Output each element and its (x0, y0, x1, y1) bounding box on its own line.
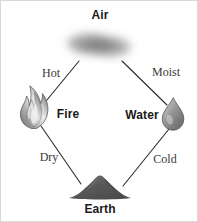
element-label-air: Air (92, 9, 109, 21)
droplet-icon (162, 98, 184, 131)
element-label-fire: Fire (57, 108, 79, 120)
element-label-earth: Earth (84, 203, 115, 215)
element-label-water: Water (125, 109, 158, 121)
flame-icon (20, 86, 48, 129)
connector-lines (41, 61, 169, 186)
mound-icon (69, 175, 131, 199)
diagram-canvas (1, 1, 198, 222)
cloud-icon (64, 33, 136, 59)
quality-label-hot: Hot (42, 67, 60, 79)
quality-label-cold: Cold (153, 153, 176, 165)
elements-diagram: Air Fire Water Earth Hot Moist Dry Cold (0, 0, 198, 222)
quality-label-dry: Dry (40, 151, 59, 163)
quality-label-moist: Moist (152, 66, 180, 78)
